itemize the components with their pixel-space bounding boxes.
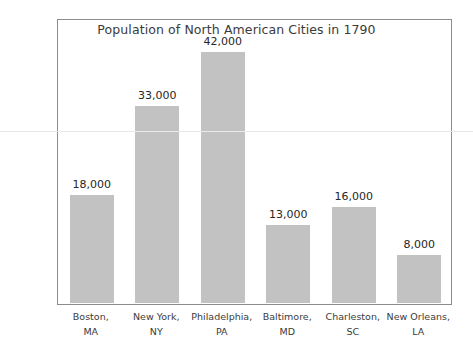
bar-slot: 13,000 (256, 21, 322, 303)
x-axis-category-state: NY (124, 324, 190, 339)
y-axis: 05,00010,00015,00020,00025,00030,00035,0… (0, 0, 57, 355)
bar-value-label: 16,000 (321, 191, 387, 202)
bar-slot: 18,000 (59, 21, 125, 303)
x-axis-category-state: SC (320, 324, 386, 339)
x-axis-category-city: Charleston, (326, 311, 380, 322)
x-axis-category-state: MA (58, 324, 124, 339)
x-axis-category-label: New York,NY (124, 309, 190, 339)
bar[interactable] (397, 255, 441, 303)
bar[interactable] (332, 207, 376, 303)
x-axis-category-city: Baltimore, (263, 311, 312, 322)
bar[interactable] (135, 106, 179, 303)
x-axis-category-state: PA (189, 324, 255, 339)
bar[interactable] (266, 225, 310, 303)
x-axis-category-label: New Orleans,LA (386, 309, 452, 339)
x-axis-category-city: Philadelphia, (191, 311, 252, 322)
bar-value-label: 42,000 (190, 36, 256, 47)
chart-title: Population of North American Cities in 1… (0, 22, 473, 37)
x-axis-category-label: Charleston,SC (320, 309, 386, 339)
plot-frame: 18,00033,00042,00013,00016,0008,000 (57, 19, 452, 305)
bar[interactable] (70, 195, 114, 303)
x-axis-category-city: New York, (133, 311, 180, 322)
x-axis-category-label: Boston,MA (58, 309, 124, 339)
bar-chart-figure: 18,00033,00042,00013,00016,0008,000 Popu… (0, 0, 473, 355)
bar-value-label: 13,000 (256, 209, 322, 220)
bar-slot: 42,000 (190, 21, 256, 303)
bar-value-label: 8,000 (387, 239, 453, 250)
bar[interactable] (201, 52, 245, 303)
bar-series: 18,00033,00042,00013,00016,0008,000 (59, 21, 450, 303)
bar-value-label: 18,000 (59, 179, 125, 190)
x-axis-category-state: MD (255, 324, 321, 339)
x-axis-category-city: Boston, (73, 311, 109, 322)
x-axis-category-state: LA (386, 324, 452, 339)
bar-slot: 33,000 (125, 21, 191, 303)
bar-slot: 16,000 (321, 21, 387, 303)
bar-slot: 8,000 (387, 21, 453, 303)
bar-value-label: 33,000 (125, 90, 191, 101)
x-axis: Boston,MANew York,NYPhiladelphia,PABalti… (58, 309, 451, 355)
plot-area: 18,00033,00042,00013,00016,0008,000 (58, 20, 451, 304)
x-axis-category-city: New Orleans, (387, 311, 450, 322)
x-axis-category-label: Philadelphia,PA (189, 309, 255, 339)
x-axis-category-label: Baltimore,MD (255, 309, 321, 339)
